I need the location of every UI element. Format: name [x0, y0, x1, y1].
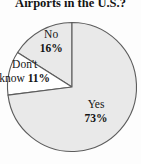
- pie-chart: No16%Don'tknow 11%Yes73%: [0, 0, 141, 164]
- pie-chart-figure: Airports in the U.S.? No16%Don'tknow 11%…: [0, 0, 141, 164]
